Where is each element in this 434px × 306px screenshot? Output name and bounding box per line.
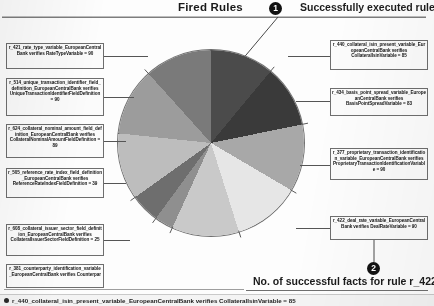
status-bar: r_440_collateral_isin_present_variable_E…: [0, 294, 434, 306]
callout-box-r505[interactable]: r_505_reference_rate_index_field_definit…: [6, 168, 104, 198]
callout-connector-r608: [104, 240, 130, 241]
callout-box-r608[interactable]: r_608_collateral_issuer_sector_field_def…: [6, 224, 104, 256]
annotation-leader-line-2: [366, 240, 382, 264]
callout-connector-r422: [296, 228, 330, 229]
callout-text: r_440_collateral_isin_present_variable_E…: [333, 42, 425, 58]
callout-text: r_381_counterparty_identification_variab…: [9, 266, 101, 277]
callout-connector-r514: [104, 97, 134, 98]
callout-text: r_514_unique_transaction_identifier_fiel…: [9, 80, 100, 102]
callout-box-r514[interactable]: r_514_unique_transaction_identifier_fiel…: [6, 78, 104, 116]
annotation-badge-2: 2: [367, 262, 380, 275]
callout-box-r377[interactable]: r_377_proprietary_transaction_identifica…: [330, 148, 428, 180]
page-title: Fired Rules: [178, 1, 243, 13]
callout-text: r_377_proprietary_transaction_identifica…: [333, 150, 425, 172]
callout-box-r381[interactable]: r_381_counterparty_identification_variab…: [6, 264, 104, 288]
annotation-note-successful-facts: No. of successful facts for rule r_422: [253, 275, 434, 287]
callout-box-r422[interactable]: r_422_deal_rate_variable_EuropeanCentral…: [330, 216, 428, 240]
callout-text: r_434_basis_point_spread_variable_Europe…: [332, 90, 426, 106]
callout-box-r421[interactable]: r_421_rate_type_variable_EuropeanCentral…: [6, 43, 104, 69]
status-bar-text: r_440_collateral_isin_present_variable_E…: [12, 297, 296, 304]
pie-slice-tick-marks: [118, 50, 308, 240]
callout-box-r624[interactable]: r_624_collateral_nominal_amount_field_de…: [6, 124, 104, 158]
annotation-note-successfully-executed-rules: Successfully executed rules: [300, 1, 434, 13]
callout-connector-r421: [104, 56, 148, 57]
callout-text: r_624_collateral_nominal_amount_field_de…: [8, 126, 101, 148]
callout-connector-r624: [104, 141, 126, 142]
callout-text: r_505_reference_rate_index_field_definit…: [8, 170, 102, 186]
callout-text: r_421_rate_type_variable_EuropeanCentral…: [9, 45, 101, 56]
callout-text: r_422_deal_rate_variable_EuropeanCentral…: [333, 218, 425, 229]
pie-chart[interactable]: [118, 50, 308, 240]
callout-text: r_608_collateral_issuer_sector_field_def…: [8, 226, 101, 242]
callout-connector-r505: [104, 183, 126, 184]
callout-connector-r440: [288, 56, 330, 57]
callout-connector-r434: [296, 101, 330, 102]
header-divider: [2, 17, 426, 18]
annotation-badge-1: 1: [269, 2, 282, 15]
bullet-dot-icon: [4, 298, 9, 303]
fired-rules-pie-chart-page: Fired Rules 1 Successfully executed rule…: [0, 0, 434, 306]
footer-divider: [246, 290, 428, 291]
callout-box-r434[interactable]: r_434_basis_point_spread_variable_Europe…: [330, 88, 428, 116]
callout-box-r440[interactable]: r_440_collateral_isin_present_variable_E…: [330, 40, 428, 70]
footer-divider-left: [4, 289, 244, 290]
callout-connector-r377: [300, 165, 330, 166]
